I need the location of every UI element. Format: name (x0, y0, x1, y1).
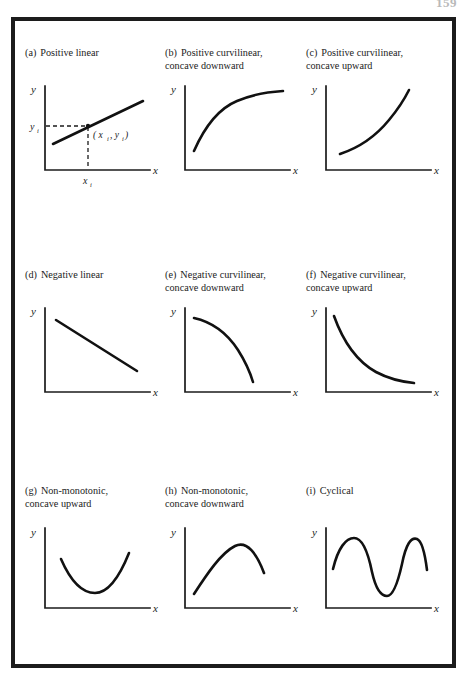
panel-b-x-axis-label: x (292, 164, 298, 176)
panel-c-tag: (c) (306, 47, 317, 58)
panel-row-2: (d)Negative linear y x (e)Negative curvi… (25, 269, 445, 449)
figure-page: 159 (a)Positive linear y y i x (0, 0, 471, 685)
panel-h-title: Non-monotonic, concave downward (165, 485, 248, 509)
panel-b-axes (185, 86, 290, 170)
panel-a-point-marker (86, 124, 90, 128)
panel-i-axes (326, 528, 431, 608)
panel-row-3: (g)Non-monotonic, concave upward y x (h)… (25, 485, 445, 665)
panel-e-title: Negative curvilinear, concave downward (165, 269, 266, 293)
panel-i-curve (333, 538, 427, 596)
panel-f-tag: (f) (306, 269, 316, 280)
panel-d-y-axis-label: y (30, 305, 36, 317)
panel-f: (f)Negative curvilinear, concave upward … (306, 269, 446, 449)
panel-b: (b)Positive curvilinear, concave downwar… (165, 47, 305, 227)
panel-h-plot: y x (165, 516, 305, 628)
panel-h-tag: (h) (165, 485, 177, 496)
panel-f-curve (334, 316, 414, 383)
panel-b-y-axis-label: y (170, 83, 176, 95)
panel-b-title: Positive curvilinear, concave downward (165, 47, 263, 71)
panel-g: (g)Non-monotonic, concave upward y x (25, 485, 165, 665)
panel-a: (a)Positive linear y y i x ( x i (25, 47, 165, 227)
panel-g-axes (45, 528, 150, 608)
panel-g-caption: (g)Non-monotonic, concave upward (25, 485, 163, 510)
panel-f-title: Negative curvilinear, concave upward (306, 269, 406, 293)
panel-f-caption: (f)Negative curvilinear, concave upward (306, 269, 444, 294)
panel-f-axes (326, 308, 431, 392)
panel-b-plot: y x (165, 78, 305, 190)
panel-d-caption: (d)Negative linear (25, 269, 163, 282)
panel-f-x-axis-label: x (433, 386, 439, 398)
panel-a-yi-subscript: i (37, 127, 39, 134)
panel-c-curve (340, 90, 409, 154)
panel-d-title: Negative linear (41, 269, 104, 280)
panel-i-title: Cyclical (320, 485, 354, 496)
panel-a-x-axis-label: x (152, 164, 158, 176)
panel-i-caption: (i)Cyclical (306, 485, 444, 498)
panel-f-y-axis-label: y (311, 305, 317, 317)
page-number: 159 (436, 0, 457, 9)
panel-g-curve (61, 553, 129, 593)
panel-g-title: Non-monotonic, concave upward (25, 485, 108, 509)
panel-d-tag: (d) (25, 269, 37, 280)
panel-a-point-label-close: ) (124, 130, 128, 141)
panel-c-axes (326, 86, 431, 170)
panel-c-x-axis-label: x (433, 164, 439, 176)
panel-f-plot: y x (306, 300, 446, 412)
panel-e-caption: (e)Negative curvilinear, concave downwar… (165, 269, 303, 294)
panel-h-x-axis-label: x (292, 602, 298, 614)
panel-a-axes (45, 86, 150, 170)
panel-a-point-label-xsub: i (107, 135, 109, 142)
panel-d-plot: y x (25, 300, 165, 412)
panel-e-y-axis-label: y (170, 305, 176, 317)
panel-d-x-axis-label: x (152, 386, 158, 398)
panel-c-caption: (c)Positive curvilinear, concave upward (306, 47, 444, 72)
panel-c-y-axis-label: y (311, 83, 317, 95)
panel-c-plot: y x (306, 78, 446, 190)
panel-i: (i)Cyclical y x (306, 485, 446, 665)
panel-i-plot: y x (306, 516, 446, 628)
panel-d: (d)Negative linear y x (25, 269, 165, 449)
panel-e-plot: y x (165, 300, 305, 412)
panel-a-title: Positive linear (40, 47, 99, 58)
panel-b-tag: (b) (165, 47, 177, 58)
panel-e-curve (194, 318, 253, 382)
panel-i-tag: (i) (306, 485, 316, 496)
panel-e-x-axis-label: x (292, 386, 298, 398)
panel-a-xi-label: x (82, 175, 88, 186)
panel-a-yi-label: y (29, 121, 35, 132)
panel-h-axes (185, 528, 290, 608)
panel-g-plot: y x (25, 516, 165, 628)
panel-a-plot: y y i x ( x i , y i ) x (25, 78, 165, 190)
panel-a-y-axis-label: y (30, 83, 36, 95)
panel-h-y-axis-label: y (170, 526, 176, 538)
panel-g-x-axis-label: x (152, 602, 158, 614)
panel-g-tag: (g) (25, 485, 37, 496)
panel-h-curve (194, 545, 264, 594)
panel-e: (e)Negative curvilinear, concave downwar… (165, 269, 305, 449)
panel-c-title: Positive curvilinear, concave upward (306, 47, 403, 71)
panel-a-point-label-mid: , y (110, 130, 120, 140)
panel-b-caption: (b)Positive curvilinear, concave downwar… (165, 47, 303, 72)
panel-b-curve (194, 91, 283, 151)
panel-d-curve (56, 320, 137, 371)
panel-a-xi-subscript: i (90, 181, 92, 188)
panel-i-y-axis-label: y (311, 526, 317, 538)
panel-c: (c)Positive curvilinear, concave upward … (306, 47, 446, 227)
panel-grid: (a)Positive linear y y i x ( x i (11, 17, 456, 668)
panel-i-x-axis-label: x (433, 602, 439, 614)
panel-e-tag: (e) (165, 269, 176, 280)
panel-h: (h)Non-monotonic, concave downward y x (165, 485, 305, 665)
panel-a-caption: (a)Positive linear (25, 47, 163, 60)
panel-d-axes (45, 308, 150, 392)
panel-row-1: (a)Positive linear y y i x ( x i (25, 47, 445, 227)
panel-h-caption: (h)Non-monotonic, concave downward (165, 485, 303, 510)
panel-a-tag: (a) (25, 47, 36, 58)
panel-a-point-label: ( x (93, 130, 104, 141)
panel-a-point-label-ysub: i (122, 135, 124, 142)
panel-g-y-axis-label: y (30, 526, 36, 538)
